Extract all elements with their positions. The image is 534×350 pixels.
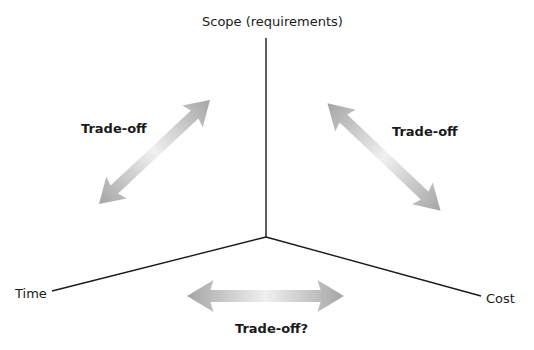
time-axis-label: Time — [15, 286, 47, 301]
tradeoff-arrow-scope-time — [89, 89, 220, 215]
diagram-graphics — [0, 0, 534, 350]
triple-constraint-diagram: Scope (requirements) Time Cost Trade-off… — [0, 0, 534, 350]
cost-axis-label: Cost — [486, 291, 515, 306]
cost-axis-line — [266, 237, 481, 296]
tradeoff-label-time-cost: Trade-off? — [235, 321, 308, 336]
tradeoff-label-scope-cost: Trade-off — [392, 124, 458, 139]
tradeoff-arrow-scope-cost — [317, 92, 451, 221]
tradeoff-arrow-time-cost — [187, 280, 344, 312]
tradeoff-label-scope-time: Trade-off — [81, 121, 147, 136]
scope-axis-label: Scope (requirements) — [202, 14, 343, 29]
time-axis-line — [52, 237, 266, 291]
